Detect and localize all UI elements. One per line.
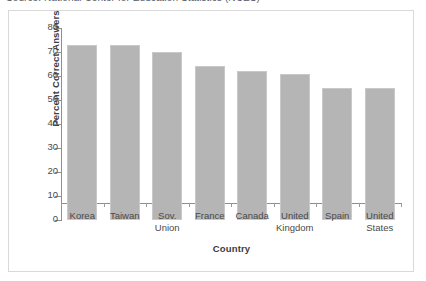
x-tick-label: Canada <box>231 210 274 222</box>
y-tick-label: 20 <box>47 165 58 176</box>
source-caption: Source: National Center for Education St… <box>6 0 260 3</box>
x-tick-mark <box>316 203 317 207</box>
x-tick-mark <box>61 203 62 207</box>
x-tick-label: Taiwan <box>104 210 147 222</box>
x-tick-label: UnitedStates <box>359 210 402 233</box>
y-tick-label: 50 <box>47 93 58 104</box>
x-tick-label: UnitedKingdom <box>274 210 317 233</box>
y-tick-label: 60 <box>47 69 58 80</box>
bar <box>322 88 352 220</box>
x-tick-label: France <box>189 210 232 222</box>
chart-frame: Percent Correct Answers 0102030405060708… <box>8 10 414 272</box>
bar <box>237 71 267 220</box>
y-tick-label: 70 <box>47 45 58 56</box>
bar <box>195 66 225 220</box>
x-tick-mark <box>359 203 360 207</box>
x-tick-mark <box>231 203 232 207</box>
x-tick-label: Korea <box>61 210 104 222</box>
x-axis-title: Country <box>61 243 402 254</box>
bar <box>110 45 140 220</box>
x-tick-mark <box>104 203 105 207</box>
bar <box>280 74 310 220</box>
x-tick-mark <box>189 203 190 207</box>
y-tick-label: 40 <box>47 117 58 128</box>
x-tick-label: Spain <box>316 210 359 222</box>
x-tick-label: Sov.Union <box>146 210 189 233</box>
x-axis-labels: KoreaTaiwanSov.UnionFranceCanadaUnitedKi… <box>61 210 402 244</box>
y-tick-label: 10 <box>47 189 58 200</box>
x-tick-mark <box>146 203 147 207</box>
plot-area: 01020304050607080 <box>61 28 401 220</box>
bar <box>67 45 97 220</box>
bar <box>365 88 395 220</box>
bar <box>152 52 182 220</box>
y-tick-label: 80 <box>47 21 58 32</box>
x-tick-mark <box>274 203 275 207</box>
y-tick-label: 0 <box>53 213 58 224</box>
y-tick-label: 30 <box>47 141 58 152</box>
x-tick-mark <box>401 203 402 207</box>
